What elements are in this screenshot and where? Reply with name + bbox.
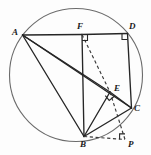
vertex-label-F: F — [77, 22, 83, 31]
segment-DC — [128, 34, 132, 109]
segment-AB — [23, 35, 85, 137]
circumscribed-circle — [10, 9, 143, 142]
segment-EC — [110, 92, 132, 108]
right-angle-at-D — [122, 34, 128, 40]
vertex-label-C: C — [134, 104, 140, 113]
vertex-label-P: P — [128, 140, 134, 149]
segment-AC — [23, 35, 132, 108]
segment-BP — [84, 137, 125, 140]
segment-BC — [84, 108, 132, 137]
segment-FB — [82, 35, 84, 137]
geometry-figure: A F D E C B P — [0, 0, 151, 155]
vertex-label-E: E — [114, 84, 120, 93]
vertex-label-A: A — [12, 28, 18, 37]
segment-AF — [23, 35, 83, 36]
vertex-label-B: B — [80, 140, 86, 149]
segment-FD — [82, 34, 128, 35]
vertex-label-D: D — [129, 22, 136, 31]
segment-BE — [84, 92, 110, 137]
